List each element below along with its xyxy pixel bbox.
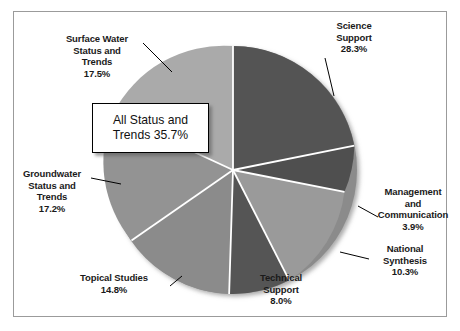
pie-label-technical-support: Technical Support 8.0% [245, 272, 317, 307]
pie-label-groundwater-status-and-trends: Groundwater Status and Trends 17.2% [13, 168, 91, 214]
pie-label-management-and-communication: Management and Communication 3.9% [367, 186, 459, 232]
plot-area: Science Support 28.3% Management and Com… [0, 0, 460, 331]
pie-label-topical-studies: Topical Studies 14.8% [62, 272, 166, 295]
pie-label-national-synthesis: National Synthesis 10.3% [368, 243, 442, 278]
all-status-and-trends-callout: All Status and Trends 35.7% [92, 103, 209, 153]
pie-label-surface-water-status-and-trends: Surface Water Status and Trends 17.5% [52, 33, 142, 79]
pie-label-science-support: Science Support 28.3% [317, 20, 391, 55]
pie-chart-figure: Science Support 28.3% Management and Com… [0, 0, 460, 331]
leader-line-national-synthesis [340, 252, 369, 259]
all-status-and-trends-callout-text: All Status and Trends 35.7% [113, 113, 188, 143]
